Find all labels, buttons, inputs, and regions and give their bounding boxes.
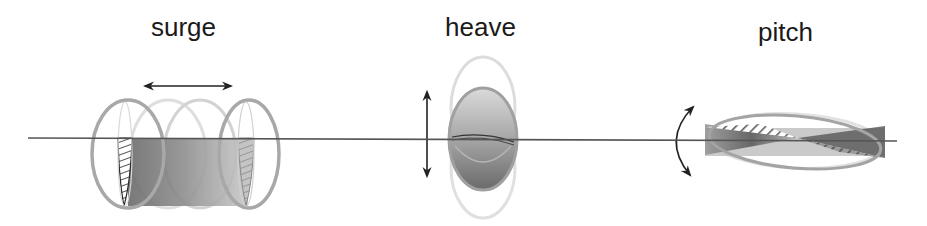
diagram-canvas: [0, 0, 927, 226]
surge-figure: [92, 86, 279, 208]
motion-modes-diagram: surge heave pitch: [0, 0, 927, 226]
heave-figure: [427, 57, 517, 218]
